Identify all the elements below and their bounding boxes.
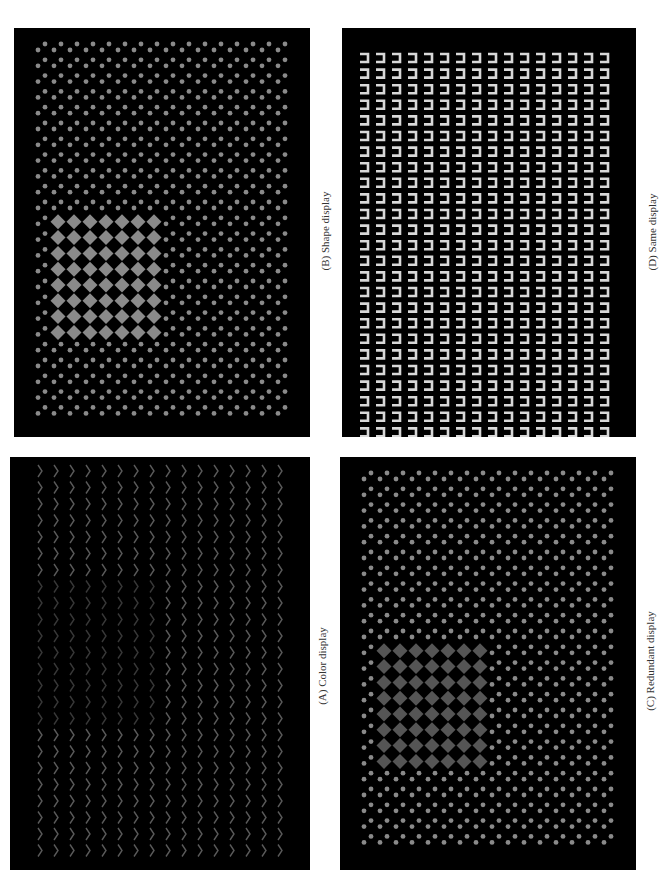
caption-same-display: (D) Same display xyxy=(646,177,658,287)
shape-display-stimulus xyxy=(14,28,310,437)
panel-shape-display xyxy=(14,28,310,437)
redundant-display-stimulus xyxy=(340,457,636,870)
caption-color-display: (A) Color display xyxy=(316,611,328,721)
caption-redundant-display: (C) Redundant display xyxy=(644,601,656,721)
panel-color-display xyxy=(10,457,310,870)
color-display-stimulus xyxy=(10,457,310,870)
caption-shape-display: (B) Shape display xyxy=(319,176,331,286)
same-display-stimulus xyxy=(342,28,636,437)
panel-redundant-display xyxy=(340,457,636,870)
panel-same-display xyxy=(342,28,636,437)
